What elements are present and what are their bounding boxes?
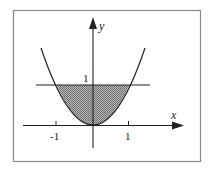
- x-tick-label-1: 1: [125, 130, 131, 142]
- y-axis-arrow-icon: [89, 17, 97, 29]
- x-tick-label-neg1: -1: [50, 130, 59, 142]
- x-axis-label: x: [170, 108, 177, 122]
- x-axis-arrow-icon: [172, 122, 184, 130]
- y-axis-label: y: [98, 19, 105, 33]
- y-tick-label-1: 1: [83, 72, 89, 84]
- figure: y x -1 1 1: [0, 0, 211, 169]
